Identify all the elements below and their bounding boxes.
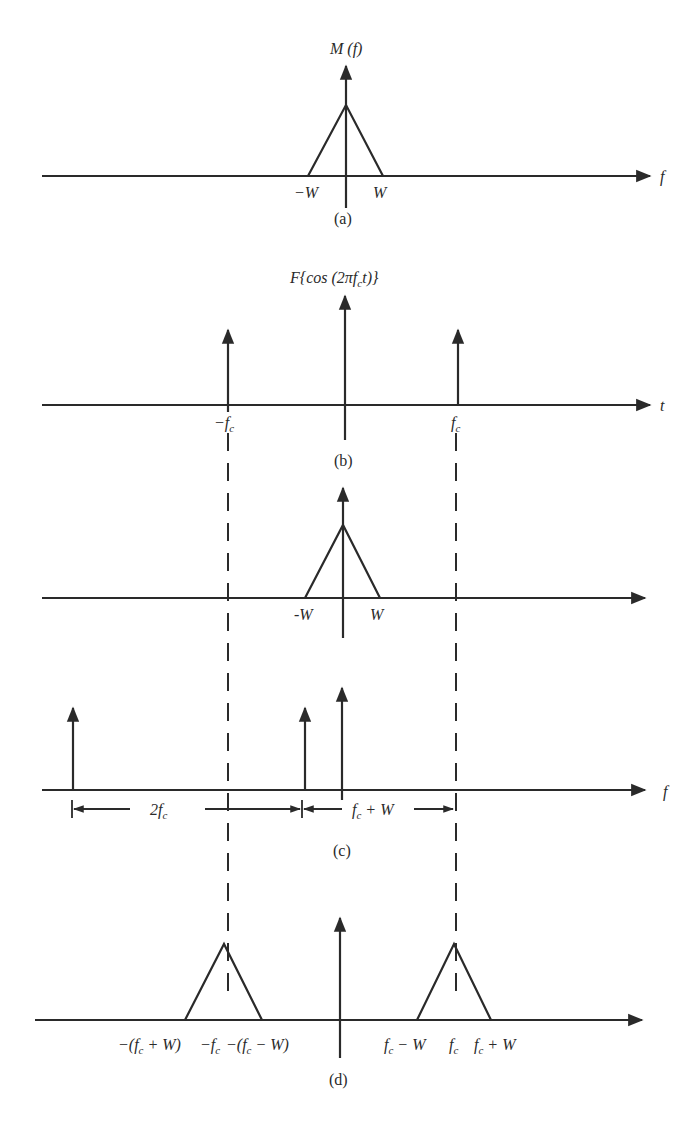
tick-label-neg-w: -W <box>294 606 314 623</box>
modulation-diagram: M (f) f −W W (a) F{cos (2πfct)} t −fc fc… <box>0 0 700 1124</box>
axis-label: f <box>660 168 667 186</box>
tick-label-w: W <box>370 606 385 623</box>
panel-d: −(fc + W) −fc −(fc − W) fc − W fc fc + W… <box>35 918 642 1089</box>
tick-label-fc: fc <box>449 1036 458 1056</box>
upper-sideband-triangle <box>417 944 491 1020</box>
tick-label-fc: fc <box>451 414 460 434</box>
panel-a: M (f) f −W W (a) <box>42 40 667 228</box>
axis-label: f <box>663 783 670 801</box>
panel-c-bottom: f 2fc fc + W (c) <box>42 688 670 860</box>
panel-c-top: -W W <box>42 488 645 638</box>
tick-label-fc-plus-w: fc + W <box>474 1036 517 1056</box>
panel-caption: (b) <box>334 452 353 470</box>
dimension-label-fc-plus-w: fc + W <box>352 801 395 821</box>
axis-label: t <box>660 397 665 414</box>
tick-label-fc-minus-w: fc − W <box>384 1036 427 1056</box>
tick-label-neg-fc: −fc <box>214 414 234 434</box>
tick-label-neg-fc: −fc <box>200 1036 220 1056</box>
tick-label-neg-w: −W <box>294 184 320 201</box>
panel-title: M (f) <box>329 40 362 58</box>
lower-sideband-triangle <box>185 944 262 1020</box>
panel-caption: (d) <box>329 1071 348 1089</box>
panel-title: F{cos (2πfct)} <box>289 269 379 289</box>
tick-label-neg-fc-plus-w: −(fc + W) <box>118 1036 181 1056</box>
tick-label-neg-fc-minus-w: −(fc − W) <box>226 1036 289 1056</box>
dimension-label-2fc: 2fc <box>150 801 167 821</box>
panel-b: F{cos (2πfct)} t −fc fc (b) <box>42 269 665 470</box>
tick-label-w: W <box>373 184 388 201</box>
panel-caption: (a) <box>334 210 352 228</box>
panel-caption: (c) <box>333 842 351 860</box>
